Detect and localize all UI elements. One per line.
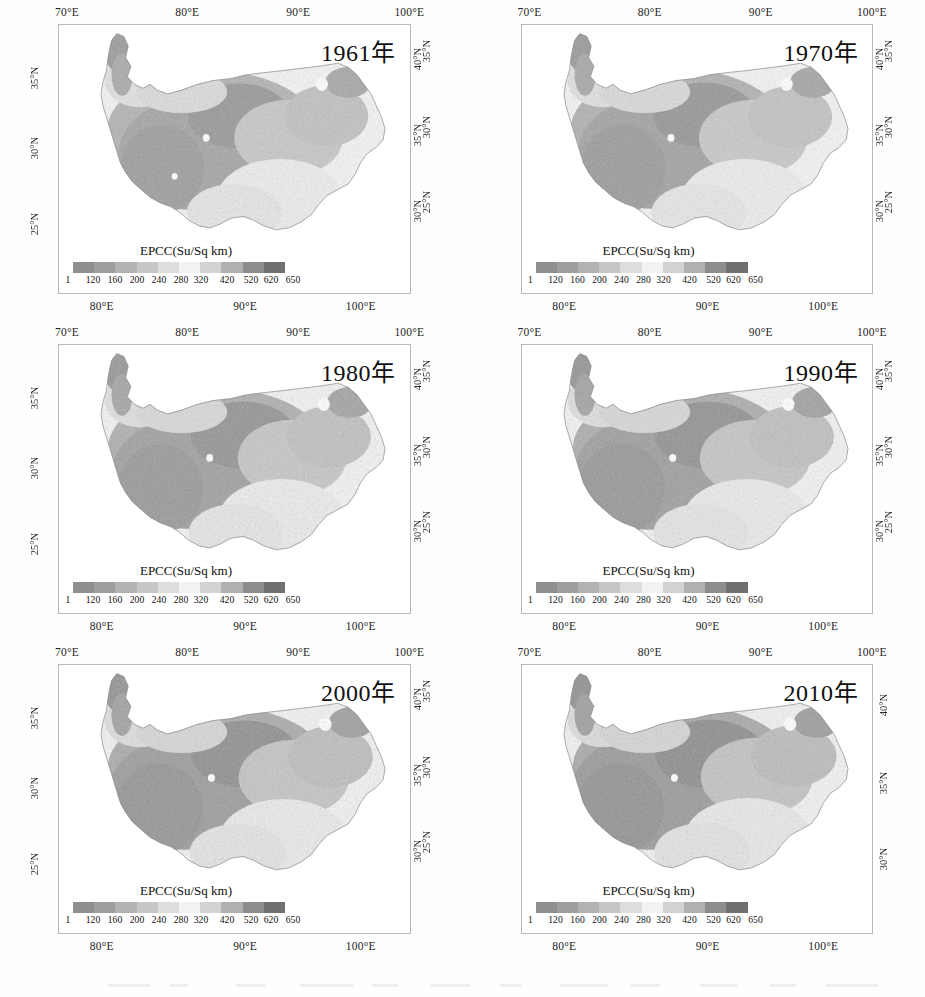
legend-tick: 620 — [264, 594, 278, 605]
lat-tick: 25°N — [422, 831, 433, 853]
lat-tick: 25°N — [30, 853, 41, 875]
legend: EPCC(Su/Sq km) 1 — [65, 243, 293, 287]
legend-tick: 650 — [286, 914, 300, 925]
legend-color-segment — [243, 262, 264, 273]
legend-tick: 160 — [570, 914, 584, 925]
lon-tick: 100°E — [857, 6, 887, 18]
map-frame[interactable]: 1970年 EPCC(Su/Sq km) — [521, 24, 874, 294]
lat-tick: 25°N — [422, 191, 433, 213]
legend-tick: 240 — [152, 594, 166, 605]
lat-axis-left — [493, 344, 519, 614]
lon-tick: 70°E — [55, 6, 79, 18]
lon-tick: 100°E — [808, 940, 838, 952]
legend-tick: 620 — [726, 594, 740, 605]
lon-axis-bottom: 80°E 90°E 100°E — [463, 940, 925, 956]
legend-colorbar — [536, 902, 748, 913]
lon-tick: 100°E — [394, 6, 424, 18]
legend-color-segment — [221, 262, 242, 273]
lat-axis-right: 40°N 35°N 35°N 30°N 30°N 25°N — [413, 664, 439, 934]
legend-color-segment — [620, 262, 641, 273]
legend-color-segment — [557, 902, 578, 913]
legend-tick: 160 — [108, 914, 122, 925]
legend-title: EPCC(Su/Sq km) — [65, 883, 293, 899]
year-label: 1970年 — [784, 33, 859, 68]
legend-color-segment — [94, 902, 115, 913]
lon-axis-top: 70°E 80°E 90°E 100°E — [0, 6, 463, 22]
legend-tick: 520 — [706, 274, 720, 285]
legend-tick: 200 — [592, 274, 606, 285]
legend-tick: 320 — [194, 914, 208, 925]
lat-axis-right: 40°N 35°N 35°N 30°N 30°N 25°N — [875, 24, 901, 294]
legend-tick: 650 — [286, 274, 300, 285]
legend-color-segment — [726, 582, 747, 593]
legend-title: EPCC(Su/Sq km) — [528, 243, 756, 259]
map-frame[interactable]: 1990年 EPCC(Su/Sq km) — [521, 344, 874, 614]
lon-tick: 80°E — [175, 6, 199, 18]
legend-tick: 240 — [614, 594, 628, 605]
lon-tick: 100°E — [394, 326, 424, 338]
lat-axis-left: 35°N 30°N 25°N — [30, 664, 56, 934]
legend-title: EPCC(Su/Sq km) — [528, 883, 756, 899]
legend-tick: 1 — [528, 274, 533, 285]
map-frame[interactable]: 1980年 EPCC(Su/Sq km) — [58, 344, 411, 614]
legend-tick: 160 — [108, 274, 122, 285]
lon-tick: 90°E — [233, 300, 257, 312]
lon-tick: 80°E — [552, 300, 576, 312]
lon-axis-top: 70°E 80°E 90°E 100°E — [0, 646, 463, 662]
lon-tick: 100°E — [394, 646, 424, 658]
lat-tick: 25°N — [30, 533, 41, 555]
legend-color-segment — [578, 262, 599, 273]
map-frame[interactable]: 1961年 EPCC(Su/Sq km) — [58, 24, 411, 294]
legend-tick: 620 — [264, 914, 278, 925]
lon-axis-top: 70°E 80°E 90°E 100°E — [463, 646, 925, 662]
legend-tick: 650 — [748, 274, 762, 285]
lon-tick: 80°E — [175, 646, 199, 658]
legend-color-segment — [94, 582, 115, 593]
legend-color-segment — [264, 902, 285, 913]
lat-tick: 30°N — [30, 457, 41, 479]
legend-tick: 320 — [656, 594, 670, 605]
year-label: 1961年 — [321, 33, 396, 68]
lat-axis-right: 40°N 35°N 35°N 30°N 30°N 25°N — [875, 344, 901, 614]
lon-tick: 80°E — [552, 940, 576, 952]
lon-tick: 80°E — [638, 646, 662, 658]
lon-tick: 70°E — [518, 326, 542, 338]
legend-ticks: 1 120 160 200 240 280 320 420 520 620 65… — [65, 914, 293, 927]
lon-tick: 80°E — [638, 326, 662, 338]
legend-tick: 320 — [194, 274, 208, 285]
lat-tick: 30°N — [884, 116, 895, 138]
lon-axis-top: 70°E 80°E 90°E 100°E — [0, 326, 463, 342]
legend-color-segment — [620, 902, 641, 913]
legend-tick: 280 — [174, 914, 188, 925]
lon-axis-top: 70°E 80°E 90°E 100°E — [463, 6, 925, 22]
lat-tick: 35°N — [884, 40, 895, 62]
legend-ticks: 1 120 160 200 240 280 320 420 520 620 65… — [528, 274, 756, 287]
legend-color-segment — [557, 582, 578, 593]
lon-axis-bottom: 80°E 90°E 100°E — [0, 940, 463, 956]
legend-color-segment — [536, 902, 557, 913]
lon-tick: 90°E — [696, 620, 720, 632]
map-frame[interactable]: 2000年 EPCC(Su/Sq km) — [58, 664, 411, 934]
legend-color-segment — [158, 902, 179, 913]
lon-tick: 90°E — [286, 6, 310, 18]
lon-tick: 90°E — [749, 6, 773, 18]
legend-colorbar — [536, 262, 748, 273]
year-label: 1980年 — [321, 353, 396, 388]
legend-tick: 280 — [636, 914, 650, 925]
legend-tick: 620 — [264, 274, 278, 285]
lat-tick: 30°N — [884, 436, 895, 458]
lon-tick: 90°E — [749, 326, 773, 338]
legend-color-segment — [179, 262, 200, 273]
scan-artifact-strip — [0, 979, 925, 993]
legend-color-segment — [599, 262, 620, 273]
panel-grid: 70°E 80°E 90°E 100°E 35°N 30°N 25°N 40°N… — [0, 0, 925, 960]
lat-tick: 25°N — [884, 511, 895, 533]
lon-axis-top: 70°E 80°E 90°E 100°E — [463, 326, 925, 342]
legend-tick: 520 — [706, 914, 720, 925]
legend-tick: 320 — [656, 274, 670, 285]
legend-tick: 240 — [614, 914, 628, 925]
lat-tick: 35°N — [30, 707, 41, 729]
legend-color-segment — [221, 582, 242, 593]
legend: EPCC(Su/Sq km) 1 — [528, 883, 756, 927]
map-frame[interactable]: 2010年 EPCC(Su/Sq km) — [521, 664, 874, 934]
